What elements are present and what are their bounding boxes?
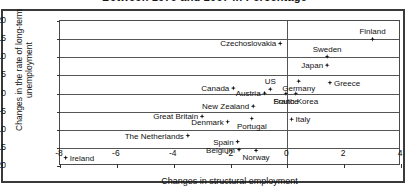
data-point-label: Norway [243,153,270,162]
x-tick-mark [117,164,118,168]
x-tick-label: -8 [47,148,71,158]
data-point-marker [225,119,230,124]
y-tick-mark [57,57,60,58]
gridline-horizontal [60,112,399,113]
data-point-marker [325,54,330,59]
x-tick-label: 0 [274,148,298,158]
data-point-marker [327,80,332,85]
data-point-label: Canada [201,84,229,93]
data-point-marker [249,116,254,121]
y-tick-label: -15 [0,143,6,151]
data-point-label: New Zealand [202,102,249,111]
data-point-label: Finland [359,27,385,36]
data-point-label: Portugal [237,122,267,131]
data-point-marker [325,63,330,68]
data-point-label: Italy [296,115,311,124]
y-axis-label: Changes in the rate of long-term unemplo… [14,0,34,140]
data-point-label: Denmark [191,117,223,126]
data-point-marker [268,87,273,92]
y-tick-mark [57,94,60,95]
x-tick-label: 4 [388,148,409,158]
y-tick-mark [57,75,60,76]
x-tick-label: -6 [104,148,128,158]
gridline-horizontal [60,94,399,95]
plot-area: FinlandCzechoslovakiaSwedenJapanGermanyG… [59,20,400,165]
x-tick-mark [344,164,345,168]
y-tick-label: 0 [0,89,6,97]
y-tick-label: 10 [0,52,6,60]
data-point-marker [185,133,190,138]
gridline-horizontal [60,57,399,58]
x-tick-label: 2 [331,148,355,158]
y-tick-label: 15 [0,34,6,42]
x-tick-label: -2 [218,148,242,158]
y-tick-label: -20 [0,161,6,169]
x-axis-label: Changes in structural employment [59,176,400,186]
y-tick-mark [57,112,60,113]
y-tick-mark [57,130,60,131]
data-point-label: South Korea [274,97,318,106]
data-point-label: Sweden [313,45,342,54]
x-tick-mark [60,164,61,168]
y-tick-mark [57,21,60,22]
x-tick-mark [231,164,232,168]
x-tick-label: -4 [161,148,185,158]
gridline-horizontal [60,130,399,131]
data-point-label: Germany [282,84,315,93]
x-tick-mark [401,164,402,168]
gridline-horizontal [60,75,399,76]
y-tick-label: -10 [0,125,6,133]
data-point-label: The Netherlands [125,131,184,140]
data-point-marker [251,104,256,109]
chart-title: Between 1979 and 2007 in Percentage [0,0,409,3]
y-tick-mark [57,39,60,40]
chart-figure: Between 1979 and 2007 in Percentage Chan… [0,0,409,193]
x-tick-mark [174,164,175,168]
data-point-label: US [265,77,276,86]
data-point-marker [278,41,283,46]
data-point-label: Czechoslovakia [220,39,276,48]
data-point-marker [296,79,301,84]
y-tick-label: 5 [0,70,6,78]
data-point-marker [262,91,267,96]
data-point-label: Greece [334,78,360,87]
data-point-marker [289,117,294,122]
data-point-marker [370,37,375,42]
x-tick-mark [287,164,288,168]
data-point-label: Ireland [70,153,94,162]
data-point-label: Austria [236,89,261,98]
y-tick-label: 20 [0,16,6,24]
data-point-marker [235,139,240,144]
y-tick-label: -5 [0,107,6,115]
data-point-label: Japan [301,61,323,70]
